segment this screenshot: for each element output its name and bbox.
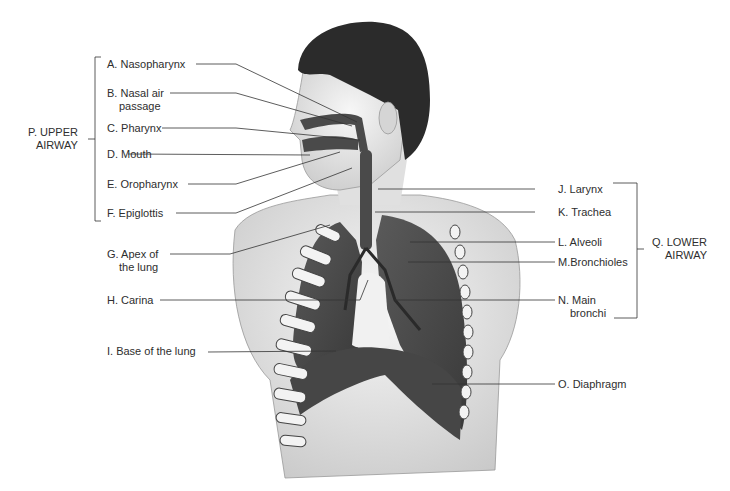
label-trachea: K. Trachea [558,206,611,219]
label-apex-of-lung: G. Apex ofthe lung [107,248,158,274]
label-nasopharynx: A. Nasopharynx [107,58,185,71]
label-oropharynx: E. Oropharynx [107,178,178,191]
group-lower-line1: Q. LOWER [652,236,707,248]
label-main-bronchi: N. Mainbronchi [558,294,606,320]
group-upper-airway: P. UPPER AIRWAY [28,126,78,152]
group-upper-line1: P. UPPER [28,126,78,138]
label-bronchioles: M.Bronchioles [558,256,628,269]
label-diaphragm: O. Diaphragm [558,378,626,391]
group-lower-line2: AIRWAY [665,249,707,261]
label-carina: H. Carina [107,294,153,307]
label-larynx: J. Larynx [558,183,603,196]
label-base-of-lung: I. Base of the lung [107,345,196,358]
trachea [360,150,372,250]
label-epiglottis: F. Epiglottis [107,207,163,220]
label-mouth: D. Mouth [107,148,152,161]
label-alveoli: L. Alveoli [558,236,602,249]
anatomy-illustration [0,0,730,491]
label-nasal-air-passage: B. Nasal airpassage [107,87,164,113]
ear [379,102,397,134]
group-upper-line2: AIRWAY [36,139,78,151]
label-pharynx: C. Pharynx [107,122,161,135]
group-lower-airway: Q. LOWER AIRWAY [652,236,707,262]
